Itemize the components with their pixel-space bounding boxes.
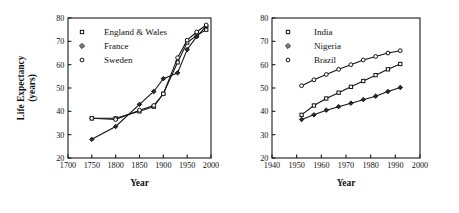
data-point-diamond-1-0 xyxy=(90,137,94,141)
x-tick-label-1900: 1900 xyxy=(155,161,171,170)
y-tick-label-30: 30 xyxy=(260,131,268,140)
y-tick-label-60: 60 xyxy=(260,61,268,70)
data-point-diamond-1-5 xyxy=(361,97,365,101)
data-point-square-0-3 xyxy=(337,91,340,94)
y-tick-label-50: 50 xyxy=(260,84,268,93)
data-point-circle-2-1 xyxy=(114,118,118,122)
legend-label-2: Brazil xyxy=(314,55,336,65)
x-tick-label-2000: 2000 xyxy=(203,161,219,170)
data-point-diamond-1-1 xyxy=(312,113,316,117)
data-point-square-0-0 xyxy=(300,113,303,116)
data-point-circle-2-6 xyxy=(374,55,378,59)
x-tick-label-1980: 1980 xyxy=(362,161,378,170)
data-point-diamond-1-6 xyxy=(373,94,377,98)
y-tick-label-30: 30 xyxy=(56,131,64,140)
data-point-circle-2-4 xyxy=(161,92,165,96)
x-tick-label-1750: 1750 xyxy=(84,161,100,170)
data-point-square-legend-0 xyxy=(286,30,289,33)
series-line-india xyxy=(302,64,401,115)
data-point-circle-2-2 xyxy=(324,73,328,77)
data-point-diamond-1-7 xyxy=(386,89,390,93)
data-point-square-0-5 xyxy=(362,79,365,82)
x-tick-label-1960: 1960 xyxy=(313,161,329,170)
legend-label-1: Nigeria xyxy=(314,41,341,51)
data-point-square-0-6 xyxy=(374,74,377,77)
data-point-square-0-1 xyxy=(312,104,315,107)
data-point-square-0-8 xyxy=(399,62,402,65)
x-tick-label-1850: 1850 xyxy=(131,161,147,170)
x-axis-title: Year xyxy=(337,178,356,188)
x-tick-label-2000: 2000 xyxy=(412,161,428,170)
data-point-diamond-1-8 xyxy=(398,85,402,89)
plot-frame xyxy=(68,18,211,158)
chart-panel-left: 1700175018001850190019502000203040506070… xyxy=(0,0,232,213)
data-point-circle-2-4 xyxy=(349,63,353,67)
legend-marker-dot-1 xyxy=(287,45,289,47)
y-axis-title-line2: (years) xyxy=(27,74,38,102)
legend-label-0: England & Wales xyxy=(104,27,168,37)
data-point-diamond-1-0 xyxy=(299,117,303,121)
x-tick-label-1970: 1970 xyxy=(338,161,354,170)
x-tick-label-1950: 1950 xyxy=(288,161,304,170)
data-point-circle-2-2 xyxy=(138,108,142,112)
data-point-circle-2-8 xyxy=(398,49,402,53)
data-point-square-legend-0 xyxy=(80,30,83,33)
data-point-square-0-4 xyxy=(349,85,352,88)
data-point-diamond-1-5 xyxy=(175,71,179,75)
x-tick-label-1950: 1950 xyxy=(179,161,195,170)
y-axis-title: Life Expectancy(years) xyxy=(16,55,38,120)
data-point-circle-legend-2 xyxy=(80,58,84,62)
y-axis-title-line1: Life Expectancy xyxy=(16,55,26,120)
y-tick-label-40: 40 xyxy=(260,107,268,116)
legend-label-0: India xyxy=(314,27,333,37)
data-point-diamond-1-3 xyxy=(336,104,340,108)
y-tick-label-20: 20 xyxy=(56,154,64,163)
data-point-circle-2-6 xyxy=(185,38,189,42)
data-point-circle-2-0 xyxy=(300,84,304,88)
data-point-diamond-1-2 xyxy=(324,108,328,112)
y-tick-label-70: 70 xyxy=(260,37,268,46)
y-tick-label-20: 20 xyxy=(260,154,268,163)
data-point-circle-2-0 xyxy=(90,116,94,120)
data-point-circle-legend-2 xyxy=(286,58,290,62)
data-point-circle-2-1 xyxy=(312,78,316,82)
data-point-square-0-7 xyxy=(386,68,389,71)
chart-canvas-left: 1700175018001850190019502000203040506070… xyxy=(0,0,232,213)
y-tick-label-70: 70 xyxy=(56,37,64,46)
legend-label-2: Sweden xyxy=(104,55,133,65)
data-point-circle-2-8 xyxy=(204,23,208,27)
y-tick-label-80: 80 xyxy=(56,14,64,23)
data-point-circle-2-3 xyxy=(152,104,156,108)
data-point-circle-2-7 xyxy=(195,30,199,34)
x-axis-title: Year xyxy=(130,178,149,188)
x-tick-label-1800: 1800 xyxy=(107,161,123,170)
legend-label-1: France xyxy=(104,41,129,51)
data-point-circle-2-3 xyxy=(337,67,341,71)
chart-panel-right: 1940195019601970198019902000203040506070… xyxy=(232,0,459,213)
y-tick-label-50: 50 xyxy=(56,84,64,93)
legend-marker-dot-1 xyxy=(81,45,83,47)
data-point-diamond-1-4 xyxy=(349,101,353,105)
data-point-circle-2-5 xyxy=(176,56,180,60)
chart-canvas-right: 1940195019601970198019902000203040506070… xyxy=(232,0,459,213)
data-point-circle-2-7 xyxy=(386,51,390,55)
figure-root: 1700175018001850190019502000203040506070… xyxy=(0,0,459,213)
x-tick-label-1990: 1990 xyxy=(387,161,403,170)
data-point-circle-2-5 xyxy=(361,58,365,62)
data-point-square-0-2 xyxy=(325,97,328,100)
y-tick-label-40: 40 xyxy=(56,107,64,116)
y-tick-label-60: 60 xyxy=(56,61,64,70)
y-tick-label-80: 80 xyxy=(260,14,268,23)
